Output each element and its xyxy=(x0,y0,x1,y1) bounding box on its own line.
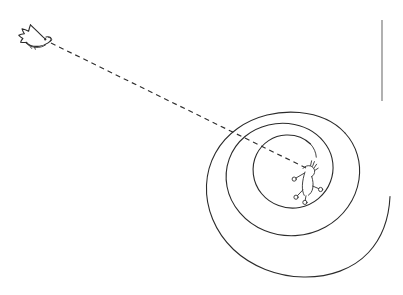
creature-head xyxy=(303,166,315,177)
creature-limb-upper-left xyxy=(296,173,304,178)
spiral-turn-inner xyxy=(253,135,333,208)
creature-node-lower-center xyxy=(303,200,307,204)
creature-plume-2 xyxy=(313,162,315,167)
creature-torso xyxy=(302,172,305,195)
center-creature-icon xyxy=(292,161,323,205)
creature-plume-4 xyxy=(315,168,318,170)
spiral-turn-middle xyxy=(226,123,360,235)
bird-body-outline xyxy=(19,25,51,47)
bird-tail-tick-2 xyxy=(35,47,36,49)
creature-node-upper-left xyxy=(292,177,296,181)
dashed-trajectory-line xyxy=(51,43,306,168)
creature-limb-right xyxy=(313,186,319,189)
creature-plume-3 xyxy=(314,164,317,168)
bird-wing-outline xyxy=(31,25,46,39)
spiral-inner-tail xyxy=(311,144,317,157)
creature-node-lower-left xyxy=(294,195,298,199)
drawing-canvas: Bird flying toward a spiral xyxy=(0,0,403,295)
illustration-svg xyxy=(0,0,403,295)
creature-limb-lower-center xyxy=(305,196,306,201)
creature-limb-lower-left xyxy=(298,190,303,196)
bird-icon xyxy=(19,25,52,50)
creature-plume-1 xyxy=(311,161,312,166)
bird-eye-icon xyxy=(44,38,46,40)
creature-node-right xyxy=(319,187,323,191)
